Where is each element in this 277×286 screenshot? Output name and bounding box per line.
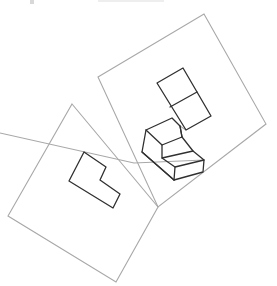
projection-lines xyxy=(0,126,204,163)
l-shape-front-view xyxy=(69,152,120,208)
projection-line xyxy=(0,133,204,163)
lower-left-plane xyxy=(8,104,158,282)
step-block-edge xyxy=(174,167,175,180)
diagram-canvas xyxy=(0,0,277,286)
step-block-edge xyxy=(162,145,193,158)
top-view-divider xyxy=(170,92,197,107)
isometric-step-block xyxy=(142,118,204,180)
step-block-edge xyxy=(146,118,182,145)
step-block-edge xyxy=(162,158,204,167)
